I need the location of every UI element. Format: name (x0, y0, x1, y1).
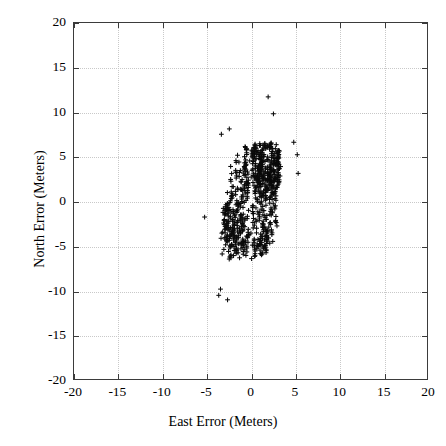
data-point (229, 193, 234, 198)
data-point (260, 225, 265, 230)
data-point (253, 145, 258, 150)
data-point (265, 170, 270, 175)
data-point (262, 152, 267, 157)
data-point (233, 240, 238, 245)
data-point (272, 178, 277, 183)
data-point (234, 247, 239, 252)
data-point (254, 174, 259, 179)
tick-mark-y (74, 113, 79, 114)
data-point (233, 168, 238, 173)
tick-mark-x (118, 374, 119, 379)
data-point (253, 163, 258, 168)
data-point (229, 171, 234, 176)
data-point (268, 220, 273, 225)
data-point (223, 212, 228, 217)
data-point (253, 146, 258, 151)
data-point (239, 179, 244, 184)
data-point (229, 252, 234, 257)
data-point (264, 230, 269, 235)
data-point (262, 208, 267, 213)
data-point (238, 241, 243, 246)
data-point (256, 169, 261, 174)
data-point (259, 234, 264, 239)
data-point (222, 235, 227, 240)
data-point (252, 143, 257, 148)
data-point (253, 142, 258, 147)
data-point (226, 219, 231, 224)
data-point (270, 184, 275, 189)
data-point (257, 143, 262, 148)
data-point (273, 218, 278, 223)
tick-mark-y (74, 202, 79, 203)
data-point (257, 152, 262, 157)
data-point (268, 167, 273, 172)
data-point (262, 142, 267, 147)
data-point (278, 174, 283, 179)
data-point (263, 146, 268, 151)
data-point (263, 170, 268, 175)
data-point (232, 236, 237, 241)
data-point (230, 226, 235, 231)
x-tick-label: 0 (226, 384, 276, 399)
data-point (261, 212, 266, 217)
data-point (262, 141, 267, 146)
data-point (230, 195, 235, 200)
data-point (275, 224, 280, 229)
data-point (240, 229, 245, 234)
data-point (269, 158, 274, 163)
data-point (262, 213, 267, 218)
data-point (225, 297, 230, 302)
data-point (264, 195, 269, 200)
data-point (239, 224, 244, 229)
data-point (240, 222, 245, 227)
data-point (253, 191, 258, 196)
data-point (268, 179, 273, 184)
data-point (240, 241, 245, 246)
data-point (229, 232, 234, 237)
data-point (263, 145, 268, 150)
data-point (228, 164, 233, 169)
data-point (261, 193, 266, 198)
data-point (228, 177, 233, 182)
data-point (253, 166, 258, 171)
data-point (264, 203, 269, 208)
data-point (262, 238, 267, 243)
data-point (269, 166, 274, 171)
data-point (269, 182, 274, 187)
data-point (264, 185, 269, 190)
data-point (274, 214, 279, 219)
data-point (241, 220, 246, 225)
data-point (234, 234, 239, 239)
data-point (259, 162, 264, 167)
data-point (270, 239, 275, 244)
data-point (269, 141, 274, 146)
tick-mark-x (163, 374, 164, 379)
data-point (224, 204, 229, 209)
data-point (223, 226, 228, 231)
data-point (276, 148, 281, 153)
data-point (263, 190, 268, 195)
data-point (276, 167, 281, 172)
data-point (234, 176, 239, 181)
data-point (266, 94, 271, 99)
data-point (220, 252, 225, 257)
data-point (264, 237, 269, 242)
data-point (241, 194, 246, 199)
data-point (230, 217, 235, 222)
data-point (273, 174, 278, 179)
data-point (231, 211, 236, 216)
data-point (269, 206, 274, 211)
data-point (238, 213, 243, 218)
data-point (221, 210, 226, 215)
data-point (266, 183, 271, 188)
data-point (235, 223, 240, 228)
data-point (232, 234, 237, 239)
data-point (266, 177, 271, 182)
data-point (229, 194, 234, 199)
data-point (233, 212, 238, 217)
data-point (238, 218, 243, 223)
data-point (225, 238, 230, 243)
data-point (239, 213, 244, 218)
data-point (222, 217, 227, 222)
data-point (275, 168, 280, 173)
